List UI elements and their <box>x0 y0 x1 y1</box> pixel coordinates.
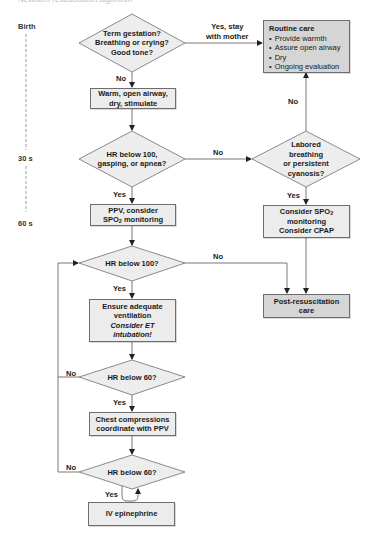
consider-spo2-cpap-box: Consider SPO2 monitoring Consider CPAP <box>263 205 350 238</box>
decision-labored-line: cyanosis? <box>288 169 325 179</box>
routine-care-title: Routine care <box>269 24 314 34</box>
post-resuscitation-box: Post-resuscitation care <box>263 294 350 318</box>
edge-label-no-loop-a: No <box>66 369 76 379</box>
resuscitation-flowchart: Newborn resuscitation algorithm <box>0 0 373 536</box>
iv-epinephrine-box: IV epinephrine <box>88 502 175 526</box>
flowchart-connectors <box>0 0 373 536</box>
edge-label-yes-ppv: Yes <box>113 190 126 200</box>
decision-initial: Term gestation? Breathing or crying? Goo… <box>84 27 180 59</box>
routine-care-item: Provide warmth <box>269 34 341 44</box>
chest-line: coordinate with PPV <box>96 424 169 434</box>
edge-label-yes-chest: Yes <box>113 398 126 408</box>
routine-care-item: Assure open airway <box>269 43 341 53</box>
ensure-line-italic: Consider ET <box>110 321 154 331</box>
warm-stimulate-box: Warm, open airway, dry, stimulate <box>90 88 176 109</box>
timeline-label-30s: 30 s <box>18 154 33 163</box>
decision-initial-line: Term gestation? <box>103 29 161 39</box>
consider-spo2-line: Consider SPO2 <box>280 207 334 217</box>
ppv-box: PPV, consider SPO2 monitoring <box>90 204 176 226</box>
edge-label-yes-epi: Yes <box>105 490 118 500</box>
decision-hr60-line: HR below 60? <box>107 373 156 383</box>
decision-labored-line: or persistent <box>283 159 328 169</box>
decision-hr100-gasping-line: gasping, or apnea? <box>98 159 167 169</box>
warm-line: Warm, open airway, <box>98 89 168 99</box>
ensure-line-italic: intubation! <box>113 330 152 340</box>
consider-spo2-line: monitoring <box>287 217 326 227</box>
decision-initial-line: Good tone? <box>111 48 153 58</box>
edge-label-no-routine: No <box>288 97 298 107</box>
decision-hr-below-60-second: HR below 60? <box>90 467 174 478</box>
edge-label-no-post: No <box>213 252 223 262</box>
decision-hr-below-100: HR below 100? <box>90 258 174 269</box>
chest-line: Chest compressions <box>96 415 170 425</box>
post-resus-line: Post-resuscitation <box>274 297 339 307</box>
iv-epinephrine-label: IV epinephrine <box>106 509 158 519</box>
edge-label-no-labored: No <box>213 148 223 158</box>
ensure-ventilation-box: Ensure adequate ventilation Consider ET … <box>89 299 176 342</box>
ppv-line: SPO2 monitoring <box>103 215 163 225</box>
decision-hr60-line: HR below 60? <box>107 468 156 478</box>
timeline-label-60s: 60 s <box>18 219 33 228</box>
chest-compressions-box: Chest compressions coordinate with PPV <box>89 412 176 436</box>
routine-care-item: Ongoing evaluation <box>269 62 341 72</box>
decision-labored-line: breathing <box>289 150 323 160</box>
decision-hr-below-60-first: HR below 60? <box>90 372 174 383</box>
warm-line: dry, stimulate <box>109 99 157 109</box>
routine-care-item: Dry <box>269 53 341 63</box>
edge-label-yes-consider: Yes <box>287 191 300 201</box>
post-resus-line: care <box>299 306 314 316</box>
edge-label-yes-ensure: Yes <box>113 284 126 294</box>
decision-initial-line: Breathing or crying? <box>95 38 169 48</box>
edge-label-no-loop-b: No <box>66 463 76 473</box>
routine-care-box: Routine care Provide warmth Assure open … <box>263 20 350 73</box>
ensure-line: Ensure adequate <box>102 302 162 312</box>
ppv-line: PPV, consider <box>108 206 158 216</box>
decision-hr100-gasping: HR below 100, gasping, or apnea? <box>90 149 174 169</box>
decision-labored-line: Labored <box>291 140 321 150</box>
timeline-label-birth: Birth <box>18 22 36 31</box>
ensure-line: ventilation <box>114 311 152 321</box>
edge-label-yes-stay: Yes, stay with mother <box>206 22 249 41</box>
decision-hr100-gasping-line: HR below 100, <box>107 150 158 160</box>
edge-label-no-warm: No <box>116 74 126 84</box>
consider-spo2-line: Consider CPAP <box>279 226 334 236</box>
decision-hr100-line: HR below 100? <box>105 259 158 269</box>
routine-care-list: Provide warmth Assure open airway Dry On… <box>269 34 341 72</box>
decision-labored-breathing: Labored breathing or persistent cyanosis… <box>266 140 346 178</box>
